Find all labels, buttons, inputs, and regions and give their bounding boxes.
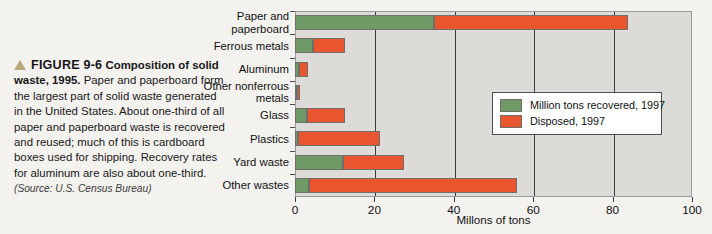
category-label: Aluminum [103,63,289,76]
y-tick-mark [290,127,295,128]
legend-swatch-disposed [500,115,522,128]
bar-chart: Paper andpaperboardFerrous metalsAluminu… [0,0,712,234]
bar-row [295,15,692,30]
bar-segment-disposed [297,85,300,100]
category-label: Ferrous metals [103,40,289,53]
y-tick-mark [290,11,295,12]
bar-row [295,178,692,193]
bar-segment-disposed [298,131,380,146]
bar-segment-disposed [343,155,405,170]
legend-label-disposed: Disposed, 1997 [530,115,605,127]
category-label: Glass [103,109,289,122]
bar-segment-disposed [313,38,345,53]
bar-segment-disposed [434,15,629,30]
x-tick-mark-60 [533,197,534,202]
y-tick-mark [290,81,295,82]
legend-swatch-recovered [500,99,522,112]
legend-item-recovered: Million tons recovered, 1997 [500,98,654,112]
category-label: Other wastes [103,179,289,192]
y-tick-mark [290,151,295,152]
y-tick-mark [290,34,295,35]
bar-segment-disposed [309,178,517,193]
bar-row [295,38,692,53]
x-tick-mark-40 [454,197,455,202]
category-label: Plastics [103,133,289,146]
bar-segment-recovered [295,15,434,30]
x-tick-mark-0 [295,197,296,202]
bar-segment-disposed [299,62,308,77]
bar-segment-disposed [307,108,345,123]
bar-segment-recovered [295,178,309,193]
y-tick-mark [290,104,295,105]
bar-row [295,62,692,77]
bar-segment-recovered [295,108,307,123]
legend-item-disposed: Disposed, 1997 [500,114,654,128]
bar-segment-recovered [295,155,343,170]
y-tick-mark [290,174,295,175]
x-tick-mark-100 [692,197,693,202]
x-axis-label: Millons of tons [295,213,692,226]
bar-row [295,155,692,170]
category-label: Paper andpaperboard [103,10,289,35]
category-label: Other nonferrousmetals [103,80,289,105]
category-label: Yard waste [103,156,289,169]
legend-label-recovered: Million tons recovered, 1997 [530,99,665,111]
x-tick-mark-20 [374,197,375,202]
bar-segment-recovered [295,38,313,53]
y-tick-mark [290,58,295,59]
chart-legend: Million tons recovered, 1997 Disposed, 1… [492,92,662,135]
x-tick-mark-80 [613,197,614,202]
